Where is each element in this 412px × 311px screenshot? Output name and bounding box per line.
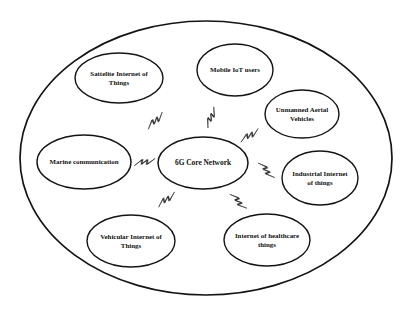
node-ellipse-vehicular-internet-of-things bbox=[87, 215, 175, 267]
node-label-mobile-iot-users: Mobile IoT users bbox=[210, 66, 260, 73]
node-label-internet-of-healthcare-things-line1: Internet of healthcare bbox=[235, 232, 299, 239]
node-mobile-iot-users[interactable]: Mobile IoT users bbox=[197, 44, 273, 96]
node-label-vehicular-internet-of-things-line1: Vehicular Internet of bbox=[100, 233, 162, 240]
node-label-unmanned-aerial-vehicles-line2: Vehicles bbox=[290, 115, 314, 122]
node-label-marine-communication: Marine communication bbox=[49, 158, 118, 165]
node-vehicular-internet-of-things[interactable]: Vehicular Internet ofThings bbox=[87, 215, 175, 267]
node-label-internet-of-healthcare-things-line2: things bbox=[258, 241, 276, 248]
node-ellipse-unmanned-aerial-vehicles bbox=[265, 90, 339, 138]
node-marine-communication[interactable]: Marine communication bbox=[37, 135, 131, 189]
node-label-industrial-internet-of-things-line2: of things bbox=[307, 179, 333, 186]
node-ellipse-industrial-internet-of-things bbox=[282, 151, 358, 205]
node-label-core: 6G Core Network bbox=[175, 158, 232, 167]
node-unmanned-aerial-vehicles[interactable]: Unmanned AerialVehicles bbox=[265, 90, 339, 138]
node-ellipse-internet-of-healthcare-things bbox=[224, 214, 310, 266]
node-label-satellite-internet-of-things-line2: Things bbox=[109, 79, 130, 86]
node-core[interactable]: 6G Core Network bbox=[158, 137, 248, 189]
node-satellite-internet-of-things[interactable]: Sattelite Internet ofThings bbox=[75, 53, 163, 103]
node-industrial-internet-of-things[interactable]: Industrial Internetof things bbox=[282, 151, 358, 205]
node-label-industrial-internet-of-things-line1: Industrial Internet bbox=[292, 170, 348, 177]
node-label-vehicular-internet-of-things-line2: Things bbox=[121, 242, 142, 249]
node-ellipse-satellite-internet-of-things bbox=[75, 53, 163, 103]
diagram-canvas: Sattelite Internet ofThingsMobile IoT us… bbox=[0, 0, 412, 311]
node-label-satellite-internet-of-things-line1: Sattelite Internet of bbox=[90, 70, 148, 77]
node-label-unmanned-aerial-vehicles-line1: Unmanned Aerial bbox=[276, 106, 328, 113]
diagram-svg: Sattelite Internet ofThingsMobile IoT us… bbox=[0, 0, 412, 311]
node-internet-of-healthcare-things[interactable]: Internet of healthcarethings bbox=[224, 214, 310, 266]
